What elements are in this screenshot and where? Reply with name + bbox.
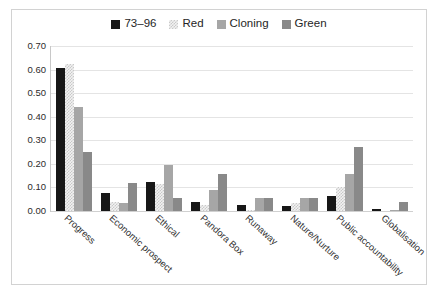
bar[interactable] [264,198,273,211]
legend-entry[interactable]: Green [282,18,327,30]
bar[interactable] [218,174,227,211]
x-axis-category-labels: ProgressEconomic prospectEthicalPandora … [51,213,413,285]
bar-group [187,46,232,211]
x-axis-category-label: Pandora Box [198,213,245,257]
y-axis-tick-label: 0.70 [28,41,47,51]
bar[interactable] [399,202,408,211]
bar[interactable] [164,165,173,211]
bar-group [142,46,187,211]
x-axis-category-label: Globalisation [379,213,426,257]
y-axis-tick-label: 0.40 [28,112,47,122]
bar-group [368,46,413,211]
legend-swatch-icon [217,20,226,29]
legend-entry[interactable]: 73–96 [111,18,156,30]
bar[interactable] [119,203,128,211]
x-axis-category-label: Ethical [153,213,181,239]
bar-group [323,46,368,211]
bar[interactable] [345,174,354,211]
bar[interactable] [372,209,381,211]
gridline [51,211,413,212]
bar[interactable] [209,190,218,211]
bar[interactable] [146,182,155,211]
bar[interactable] [390,210,399,211]
bar[interactable] [65,64,74,211]
legend-label: Cloning [230,18,269,30]
legend-swatch-icon [111,20,120,29]
bar[interactable] [128,183,137,211]
bar[interactable] [173,198,182,211]
bar[interactable] [191,202,200,211]
bar[interactable] [300,198,309,211]
legend-label: Green [295,18,327,30]
y-axis-tick-label: 0.10 [28,183,47,193]
legend-label: Red [182,18,203,30]
bar[interactable] [255,198,264,211]
x-axis-category-label: Progress [63,213,98,245]
bar[interactable] [291,203,300,211]
legend-swatch-icon [169,20,178,29]
bar[interactable] [155,184,164,211]
bar[interactable] [336,187,345,211]
bar[interactable] [354,147,363,211]
bar[interactable] [110,202,119,211]
bar[interactable] [83,152,92,211]
legend-entry[interactable]: Red [169,18,203,30]
bar-group [51,46,96,211]
bar[interactable] [327,196,336,211]
x-axis-category-label: Runaway [244,213,280,247]
chart-frame: 73–96RedCloningGreen 0.700.600.500.400.3… [11,9,427,285]
bar[interactable] [309,198,318,211]
bar-group [277,46,322,211]
bar[interactable] [200,205,209,211]
y-axis-tick-label: 0.60 [28,65,47,75]
legend-swatch-icon [282,20,291,29]
bar[interactable] [56,68,65,211]
bar-group [96,46,141,211]
chart-legend: 73–96RedCloningGreen [12,13,426,35]
y-axis-tick-label: 0.20 [28,159,47,169]
bar[interactable] [282,206,291,211]
bar[interactable] [101,193,110,211]
y-axis-tick-label: 0.50 [28,88,47,98]
legend-entry[interactable]: Cloning [217,18,269,30]
y-axis-tick-label: 0.30 [28,136,47,146]
legend-label: 73–96 [124,18,156,30]
bar-group [232,46,277,211]
plot-area [51,46,413,211]
y-axis-tick-label: 0.00 [28,206,47,216]
y-axis-tick-labels: 0.700.600.500.400.300.200.100.00 [12,46,50,211]
bar[interactable] [74,107,83,211]
bar[interactable] [237,205,246,211]
